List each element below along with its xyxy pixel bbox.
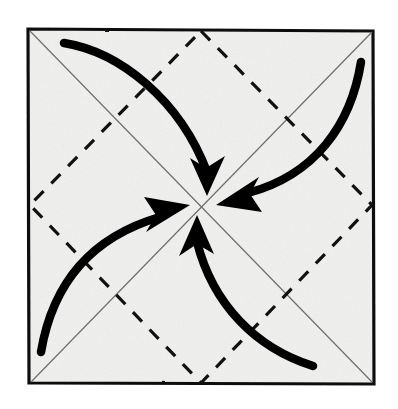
diagram-page: Origami fold diagram: four corners folde… <box>0 0 398 409</box>
origami-fold-diagram <box>0 0 398 409</box>
